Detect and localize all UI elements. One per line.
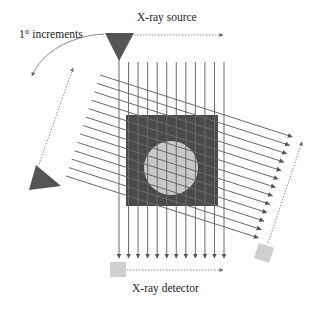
rotated-detector-translation-arrow bbox=[268, 142, 302, 243]
rotated-beams bbox=[66, 75, 292, 238]
rotated-xray-detector-icon bbox=[254, 243, 274, 263]
xray-detector-icon bbox=[110, 262, 126, 277]
rotation-label: 1° increments bbox=[19, 28, 83, 40]
ct-scan-diagram: X-ray source 1° increments X-ray detecto… bbox=[0, 0, 318, 310]
rotated-xray-source-icon bbox=[29, 165, 61, 190]
rotated-source-translation-arrow bbox=[39, 68, 73, 164]
rotation-arc-arrow bbox=[32, 34, 104, 76]
object-circle bbox=[144, 141, 198, 195]
source-label: X-ray source bbox=[137, 11, 197, 24]
detector-label: X-ray detector bbox=[132, 282, 199, 295]
xray-source-icon bbox=[105, 33, 134, 61]
